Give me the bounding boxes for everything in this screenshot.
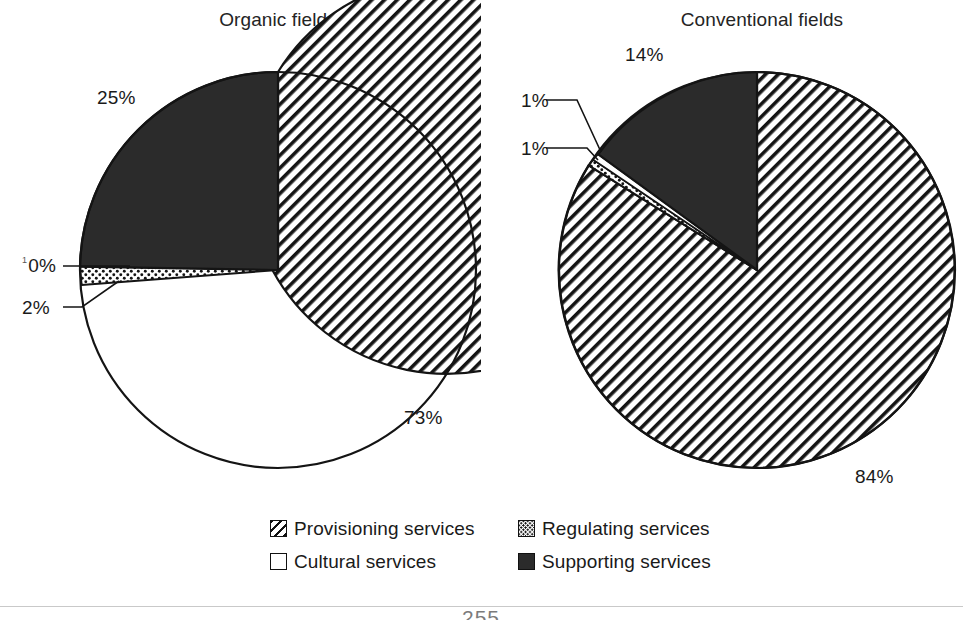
pct-label-provisioning-conventional: 84% xyxy=(855,466,894,488)
legend-label-supporting: Supporting services xyxy=(542,551,711,573)
pie-slice-provisioning-organic xyxy=(272,0,481,374)
pie-svg-conventional xyxy=(481,0,962,500)
figure-canvas: Organic fields xyxy=(0,0,963,620)
legend-label-provisioning: Provisioning services xyxy=(294,518,475,540)
legend-swatch-empty-icon xyxy=(270,553,287,570)
chart-legend: Provisioning services Regulating service… xyxy=(270,512,740,578)
legend-item-cultural[interactable]: Cultural services xyxy=(270,551,518,573)
legend-item-provisioning[interactable]: Provisioning services xyxy=(270,518,518,540)
leader-line-regulating-conventional xyxy=(546,148,598,160)
pct-label-regulating-conventional: 1% xyxy=(521,138,549,160)
footnote-marker-cultural-organic: 1 xyxy=(22,255,27,265)
footer-clipped-text: 255 xyxy=(462,607,500,620)
legend-swatch-solid-icon xyxy=(518,553,535,570)
legend-swatch-hatch-icon xyxy=(270,520,287,537)
legend-item-regulating[interactable]: Regulating services xyxy=(518,518,740,540)
pct-label-provisioning-organic: 73% xyxy=(404,407,443,429)
pct-label-regulating-organic: 2% xyxy=(22,297,50,319)
legend-swatch-dots-icon xyxy=(518,520,535,537)
legend-label-regulating: Regulating services xyxy=(542,518,710,540)
pie-chart-conventional xyxy=(481,0,962,500)
pct-label-cultural-organic-value: 0% xyxy=(28,255,56,276)
pct-label-cultural-conventional: 1% xyxy=(521,90,549,112)
pct-label-cultural-organic: 10% xyxy=(22,255,56,277)
leader-line-cultural-conventional xyxy=(546,100,601,152)
legend-item-supporting[interactable]: Supporting services xyxy=(518,551,740,573)
pct-label-supporting-conventional: 14% xyxy=(625,44,664,66)
pct-label-supporting-organic: 25% xyxy=(97,87,136,109)
legend-label-cultural: Cultural services xyxy=(294,551,436,573)
